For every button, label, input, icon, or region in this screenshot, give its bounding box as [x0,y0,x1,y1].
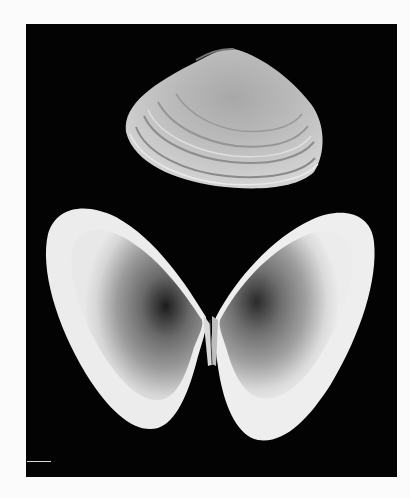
scale-mark [27,461,51,462]
shell-illustration [26,24,397,477]
hinge [204,316,218,366]
specimen-photo [26,24,397,477]
exterior-shell [126,49,323,189]
left-valve [46,208,206,429]
right-valve [214,213,374,441]
